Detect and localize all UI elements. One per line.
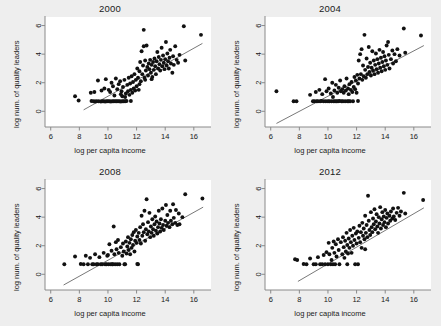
data-point [419, 34, 423, 38]
x-tick-label: 8 [297, 132, 301, 141]
y-tick-label: 6 [35, 23, 44, 27]
data-point [152, 68, 156, 72]
x-tick-label: 14 [161, 132, 169, 141]
data-point [342, 245, 346, 249]
data-point [129, 99, 133, 103]
data-point [351, 244, 355, 248]
data-point [141, 64, 145, 68]
data-point [96, 79, 100, 83]
y-tick-label: 4 [35, 52, 44, 56]
data-point [327, 252, 331, 256]
data-point [368, 61, 372, 65]
y-tick-label: 2 [35, 81, 44, 85]
data-point [89, 91, 93, 95]
data-point [162, 61, 166, 65]
data-point [110, 249, 114, 253]
data-point [86, 262, 90, 266]
data-point [317, 88, 321, 92]
data-point [371, 69, 375, 73]
data-point [110, 81, 114, 85]
data-point [378, 222, 382, 226]
y-tick-label: 6 [255, 23, 264, 27]
data-point [145, 44, 149, 48]
data-point [360, 221, 364, 225]
data-point [160, 207, 164, 211]
data-point [337, 86, 341, 90]
data-point [329, 91, 333, 95]
x-tick-label: 6 [269, 295, 273, 304]
data-point [367, 45, 371, 49]
data-point [366, 65, 370, 69]
x-axis-title: log per capita income [220, 309, 440, 318]
data-point [373, 72, 377, 76]
data-point [168, 48, 172, 52]
data-point [346, 252, 350, 256]
data-point [395, 211, 399, 215]
data-point [345, 262, 349, 266]
data-point [137, 82, 141, 86]
data-point [364, 231, 368, 235]
data-point [336, 237, 340, 241]
data-point [378, 48, 382, 52]
data-point [380, 60, 384, 64]
data-point [116, 238, 120, 242]
data-point [162, 228, 166, 232]
data-point [403, 212, 407, 216]
data-point [342, 256, 346, 260]
panel-title: 2008 [0, 166, 220, 177]
data-point [148, 211, 152, 215]
data-point [143, 209, 147, 213]
data-point [84, 254, 88, 258]
data-point [378, 66, 382, 70]
data-point [127, 241, 131, 245]
scatter-panel-2008: 68101214160246 2008 log num. of quality … [0, 163, 220, 326]
data-point [158, 222, 162, 226]
y-tick-label: 0 [255, 272, 264, 276]
data-point [383, 68, 387, 72]
data-point [337, 248, 341, 252]
x-tick-label: 10 [324, 132, 332, 141]
x-tick-label: 8 [77, 295, 81, 304]
data-point [385, 63, 389, 67]
data-point [125, 244, 129, 248]
data-point [327, 241, 331, 245]
data-point [125, 99, 129, 103]
data-point [295, 99, 299, 103]
data-point [379, 56, 383, 60]
data-point [117, 262, 121, 266]
data-point [111, 262, 115, 266]
data-point [155, 50, 159, 54]
y-axis-title: log num. of quality leaders [12, 203, 21, 291]
data-point [369, 74, 373, 78]
data-point [332, 251, 336, 255]
data-point [330, 258, 334, 262]
data-point [383, 54, 387, 58]
panel-title: 2012 [220, 166, 440, 177]
data-point [376, 231, 380, 235]
x-axis-title: log per capita income [220, 146, 440, 155]
figure-panel-grid: 68101214160246 2000 log num. of quality … [0, 0, 441, 326]
scatter-panel-2004: 68101214160246 2004 log num. of quality … [220, 0, 440, 163]
data-point [97, 255, 101, 259]
data-point [140, 234, 144, 238]
x-tick-label: 8 [77, 132, 81, 141]
data-point [108, 90, 112, 94]
data-point [394, 59, 398, 63]
y-tick-label: 4 [255, 215, 264, 219]
data-point [165, 51, 169, 55]
data-point [177, 212, 181, 216]
data-point [120, 94, 124, 98]
data-point [370, 49, 374, 53]
data-point [361, 64, 365, 68]
y-axis-title: log num. of quality leaders [232, 40, 241, 128]
data-point [134, 228, 138, 232]
data-point [362, 227, 366, 231]
data-point [352, 226, 356, 230]
scatter-panel-2012: 68101214160246 2012 log num. of quality … [220, 163, 440, 326]
data-point [389, 57, 393, 61]
data-point [384, 225, 388, 229]
scatter-panel-2000: 68101214160246 2000 log num. of quality … [0, 0, 220, 163]
data-point [370, 230, 374, 234]
data-point [347, 92, 351, 96]
data-point [148, 235, 152, 239]
